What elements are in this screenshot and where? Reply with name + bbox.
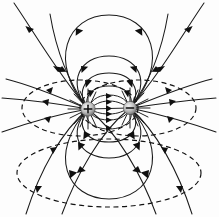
dipole-figure [0, 0, 219, 217]
dipole-field-diagram [0, 0, 219, 217]
